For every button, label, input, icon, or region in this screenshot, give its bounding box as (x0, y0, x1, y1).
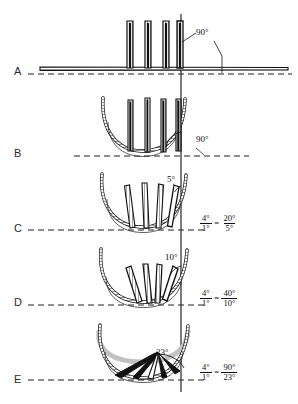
panel-label-a: A (14, 65, 22, 77)
panel-d-angle-label: 10° (165, 252, 178, 262)
ratio-left-fraction: 4° 1° (200, 289, 212, 308)
panel-b-group (74, 98, 249, 157)
panel-a-group (28, 21, 292, 74)
panel-label-d: D (14, 296, 22, 308)
ratio-left-denominator: 1° (200, 372, 212, 382)
panel-b-angle-label: 90° (196, 134, 209, 144)
panel-a-angle-leader (182, 33, 196, 42)
element-bar (128, 100, 133, 151)
equals-sign: = (212, 367, 222, 377)
panel-b-angle-leader (196, 148, 204, 155)
panel-a-elements (127, 21, 183, 68)
ratio-left-denominator: 1° (200, 223, 212, 233)
panel-b-elements (128, 98, 181, 152)
panel-label-b: B (14, 147, 22, 159)
element-bar (163, 266, 179, 301)
ratio-right-fraction: 40° 10° (221, 289, 237, 308)
ratio-left-fraction: 4° 1° (200, 214, 212, 233)
element-bar (127, 21, 133, 68)
panel-e-ghost-arc (99, 330, 188, 362)
panel-d-ratio: 4° 1° = 40° 10° (200, 289, 237, 308)
panel-d-group (28, 249, 205, 308)
ratio-left-numerator: 4° (200, 363, 212, 372)
element-bar (143, 264, 152, 303)
panel-label-c: C (14, 222, 22, 234)
panel-a-angle-label: 90° (196, 27, 209, 37)
panel-c-elements (125, 183, 180, 228)
element-bar (161, 99, 166, 152)
panel-e-group (28, 325, 205, 383)
ratio-right-denominator: 23° (221, 372, 237, 382)
panel-d-elements (126, 264, 178, 303)
ratio-right-fraction: 20° 5° (221, 214, 237, 233)
panel-c-ratio: 4° 1° = 20° 5° (200, 214, 237, 233)
panel-c-group (28, 174, 205, 233)
ratio-right-numerator: 20° (221, 214, 237, 223)
element-bar (145, 21, 151, 68)
element-bar (163, 21, 169, 68)
ratio-right-numerator: 90° (221, 363, 237, 372)
ratio-left-fraction: 4° 1° (200, 363, 212, 382)
figure-canvas (0, 0, 298, 404)
element-bar (142, 183, 149, 228)
panel-e-angle-label: 23° (156, 347, 169, 357)
element-bar (125, 185, 136, 228)
equals-sign: = (212, 293, 222, 303)
element-bar (126, 266, 142, 303)
ratio-left-numerator: 4° (200, 214, 212, 223)
panel-e-ratio: 4° 1° = 90° 23° (200, 363, 237, 382)
ratio-right-denominator: 10° (221, 298, 237, 308)
equals-sign: = (212, 218, 222, 228)
element-bar (177, 21, 183, 68)
ratio-left-denominator: 1° (200, 298, 212, 308)
ratio-right-fraction: 90° 23° (221, 363, 237, 382)
panel-label-e: E (14, 373, 22, 385)
ratio-right-denominator: 5° (224, 223, 236, 233)
element-bar (176, 99, 181, 151)
panel-c-angle-label: 5° (167, 174, 175, 184)
ratio-right-numerator: 40° (221, 289, 237, 298)
ratio-left-numerator: 4° (200, 289, 212, 298)
element-bar (145, 98, 150, 152)
